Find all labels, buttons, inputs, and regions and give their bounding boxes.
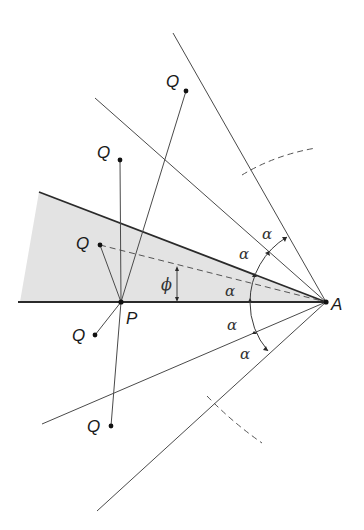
point-q3 bbox=[98, 243, 103, 248]
label-q4: Q bbox=[72, 326, 85, 345]
point-q1 bbox=[184, 89, 189, 94]
shaded-wedge bbox=[20, 192, 326, 302]
label-p: P bbox=[126, 309, 138, 328]
point-q5 bbox=[109, 424, 114, 429]
point-a bbox=[323, 299, 328, 304]
diagram-canvas: A P Q Q Q Q Q α α α α α ϕ bbox=[0, 0, 364, 530]
point-q2 bbox=[118, 158, 123, 163]
dashed-arc-upper bbox=[242, 148, 316, 175]
alpha-label-1: α bbox=[262, 225, 272, 243]
segment-p-q5 bbox=[111, 302, 121, 426]
point-q4 bbox=[93, 333, 98, 338]
label-q1: Q bbox=[166, 72, 179, 91]
point-p bbox=[118, 299, 123, 304]
segment-p-q4 bbox=[95, 302, 121, 335]
label-q3: Q bbox=[76, 234, 89, 253]
alpha-label-4: α bbox=[227, 316, 237, 334]
ray-lower-2 bbox=[97, 302, 326, 511]
phi-label: ϕ bbox=[161, 275, 172, 294]
label-q5: Q bbox=[87, 417, 100, 436]
label-q2: Q bbox=[97, 143, 110, 162]
label-a: A bbox=[330, 295, 342, 314]
alpha-label-2: α bbox=[239, 245, 249, 263]
alpha-label-3: α bbox=[225, 282, 235, 300]
ray-lower-1 bbox=[42, 302, 326, 424]
alpha-label-5: α bbox=[240, 345, 250, 363]
